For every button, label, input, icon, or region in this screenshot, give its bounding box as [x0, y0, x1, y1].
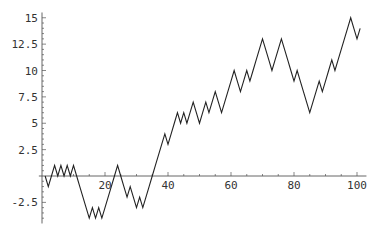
data-line — [45, 18, 360, 218]
random-walk-chart: 20406080100-2.52.557.51012.515 — [0, 0, 385, 236]
y-tick-label: 5 — [31, 117, 38, 130]
y-tick-label: 7.5 — [18, 91, 38, 104]
axis-tick-labels: 20406080100-2.52.557.51012.515 — [12, 12, 367, 210]
x-tick-label: 60 — [224, 179, 237, 192]
y-tick-label: 12.5 — [12, 38, 39, 51]
axis-ticks — [42, 18, 357, 218]
x-tick-label: 20 — [98, 179, 111, 192]
y-tick-label: 2.5 — [18, 144, 38, 157]
y-tick-label: 15 — [25, 12, 38, 25]
y-tick-label: 10 — [25, 65, 38, 78]
x-tick-label: 40 — [161, 179, 174, 192]
x-tick-label: 80 — [287, 179, 300, 192]
x-tick-label: 100 — [347, 179, 367, 192]
y-tick-label: -2.5 — [12, 196, 39, 209]
axes — [39, 12, 367, 223]
